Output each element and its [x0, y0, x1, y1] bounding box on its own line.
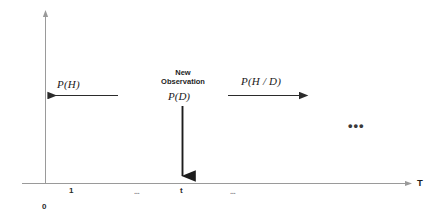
new-observation-line1: New: [143, 68, 223, 77]
prior-probability-label: P(H): [57, 79, 80, 90]
bayesian-timeline-diagram: P(H) P(H / D) New Observation P(D) ••• 1…: [0, 0, 438, 221]
axis-tick-1: 1: [69, 187, 73, 195]
axis-tick-t: t: [180, 187, 183, 195]
axis-tick-ellipsis-left: ...: [134, 188, 139, 196]
new-observation-caption: New Observation: [143, 68, 223, 87]
observation-probability-label: P(D): [168, 91, 190, 102]
posterior-probability-label: P(H / D): [241, 76, 281, 87]
continuation-ellipsis: •••: [348, 119, 365, 132]
new-observation-line2: Observation: [143, 77, 223, 86]
axis-origin-label: 0: [42, 203, 46, 211]
time-axis-label: T: [417, 178, 423, 188]
axis-tick-ellipsis-right: ...: [230, 188, 235, 196]
diagram-canvas: [0, 0, 438, 221]
